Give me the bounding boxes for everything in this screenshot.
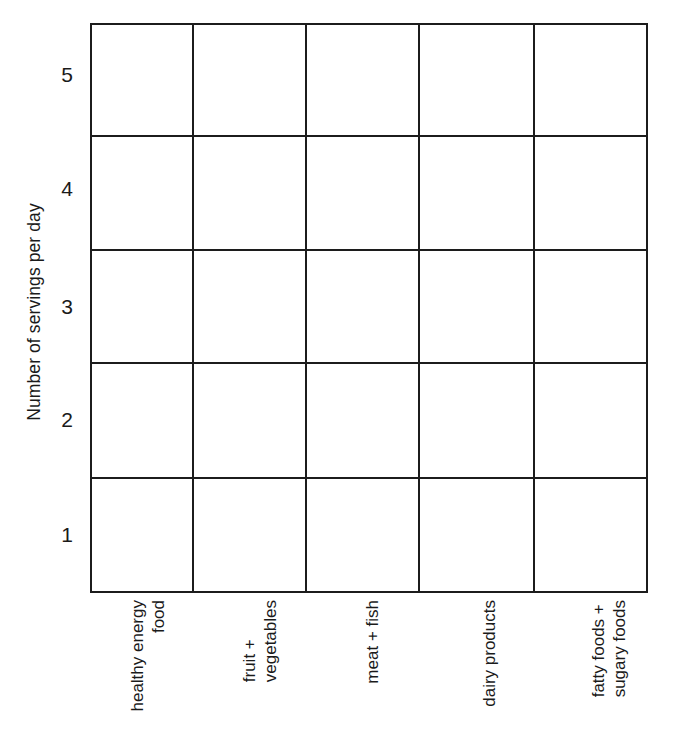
y-axis-tick-labels: 5 4 3 2 1 xyxy=(50,0,80,749)
x-axis-label-line1: fruit + xyxy=(240,600,261,682)
x-axis-label-line2: sugary foods xyxy=(610,600,631,697)
grid-line-horizontal xyxy=(90,23,648,25)
grid-line-vertical xyxy=(90,23,92,593)
grid-line-horizontal xyxy=(90,135,648,137)
y-tick-label-5: 5 xyxy=(54,64,80,85)
x-axis-label-fatty-sugary-foods: fatty foods + sugary foods xyxy=(589,600,630,697)
x-axis-label-line2: vegetables xyxy=(261,600,282,682)
y-tick-label-1: 1 xyxy=(54,524,80,545)
x-axis-label-dairy-products: dairy products xyxy=(480,600,501,707)
grid-line-horizontal xyxy=(90,249,648,251)
grid-line-vertical xyxy=(418,23,420,593)
grid-line-horizontal xyxy=(90,477,648,479)
grid-line-horizontal xyxy=(90,362,648,364)
grid-line-vertical xyxy=(646,23,648,593)
x-axis-label-line1: healthy energy xyxy=(128,600,149,712)
x-axis-label-line1: dairy products xyxy=(480,600,501,707)
grid-line-vertical xyxy=(533,23,535,593)
grid-line-horizontal xyxy=(90,591,648,593)
x-axis-label-fruit-vegetables: fruit + vegetables xyxy=(240,600,281,682)
plot-grid[interactable] xyxy=(90,23,648,593)
x-axis-label-line1: meat + fish xyxy=(363,600,384,684)
y-tick-label-4: 4 xyxy=(54,178,80,199)
y-tick-label-2: 2 xyxy=(54,409,80,430)
x-axis-label-healthy-energy-food: healthy energy food xyxy=(128,600,169,712)
x-axis-label-line2: food xyxy=(149,600,170,712)
y-axis-title: Number of servings per day xyxy=(24,203,45,421)
grid-line-vertical xyxy=(192,23,194,593)
y-tick-label-3: 3 xyxy=(54,296,80,317)
x-axis-label-line1: fatty foods + xyxy=(589,600,610,697)
grid-line-vertical xyxy=(305,23,307,593)
blank-bar-chart-worksheet: 5 4 3 2 1 Number of servings per day hea… xyxy=(0,0,675,749)
x-axis-label-meat-fish: meat + fish xyxy=(363,600,384,684)
